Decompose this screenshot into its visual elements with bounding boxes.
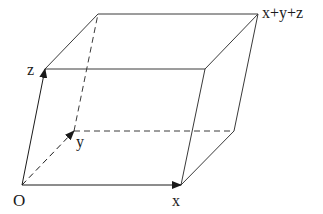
- vector-z-arrow: [22, 69, 45, 185]
- hidden-edge-y-to-yz: [74, 14, 98, 131]
- edge-xy-to-xyz: [234, 14, 258, 131]
- y-vector-label: y: [76, 134, 84, 150]
- edge-xz-to-xyz: [205, 14, 258, 69]
- edge-x-to-xy: [181, 131, 234, 185]
- diagram-svg: [0, 0, 323, 214]
- vector-y-arrow: [22, 131, 74, 185]
- sum-vertex-label: x+y+z: [262, 5, 303, 21]
- x-vector-label: x: [172, 193, 180, 209]
- origin-label: O: [13, 192, 25, 209]
- edge-x-to-xz: [181, 69, 205, 185]
- edge-z-to-yz: [45, 14, 98, 69]
- z-vector-label: z: [27, 62, 34, 78]
- parallelepiped-diagram: O x y z x+y+z: [0, 0, 323, 214]
